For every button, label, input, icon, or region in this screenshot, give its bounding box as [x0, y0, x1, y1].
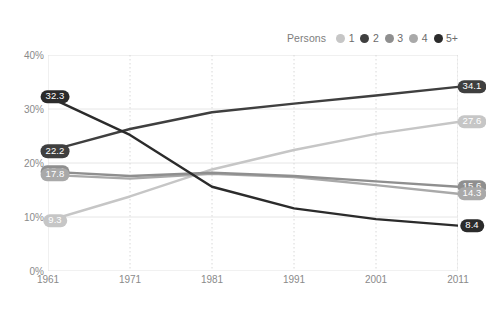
- legend-item-label: 1: [349, 32, 355, 44]
- data-label-start-4: 17.8: [41, 168, 70, 181]
- legend-item-label: 5+: [446, 32, 458, 44]
- data-label-end-1: 27.6: [458, 115, 486, 128]
- legend-swatch-icon: [385, 34, 394, 43]
- legend-item-1[interactable]: 1: [336, 32, 354, 44]
- y-axis: 0%10%20%30%40%: [0, 55, 44, 271]
- data-label-end-4: 14.3: [458, 187, 486, 200]
- plot-svg: [48, 55, 458, 271]
- legend-swatch-icon: [409, 34, 418, 43]
- legend-swatch-icon: [434, 34, 443, 43]
- data-label-start-2: 22.2: [41, 144, 70, 157]
- y-axis-tick-label: 30%: [4, 104, 44, 115]
- x-axis-tick-label: 1961: [37, 274, 59, 285]
- x-axis-tick-label: 1981: [201, 274, 223, 285]
- x-axis-tick-label: 1971: [119, 274, 141, 285]
- legend-swatch-icon: [336, 34, 345, 43]
- legend-item-5plus[interactable]: 5+: [434, 32, 458, 44]
- data-label-start-5plus: 32.3: [41, 90, 70, 103]
- legend-item-label: 2: [373, 32, 379, 44]
- legend-swatch-icon: [360, 34, 369, 43]
- legend-title: Persons: [287, 32, 326, 44]
- x-axis-tick-label: 1991: [283, 274, 305, 285]
- legend-item-3[interactable]: 3: [385, 32, 403, 44]
- plot-area: [48, 55, 458, 271]
- y-axis-tick-label: 40%: [4, 50, 44, 61]
- x-axis: 196119711981199120012011: [48, 274, 458, 290]
- x-axis-tick-label: 2011: [447, 274, 469, 285]
- data-label-start-1: 9.3: [43, 214, 67, 227]
- data-label-end-5plus: 8.4: [460, 219, 484, 232]
- y-axis-tick-label: 20%: [4, 158, 44, 169]
- x-axis-tick-label: 2001: [365, 274, 387, 285]
- legend-item-2[interactable]: 2: [360, 32, 378, 44]
- chart-legend: Persons 12345+: [287, 31, 458, 45]
- data-label-end-2: 34.1: [458, 80, 486, 93]
- legend-item-label: 3: [397, 32, 403, 44]
- legend-item-4[interactable]: 4: [409, 32, 427, 44]
- y-axis-tick-label: 10%: [4, 212, 44, 223]
- legend-item-label: 4: [422, 32, 428, 44]
